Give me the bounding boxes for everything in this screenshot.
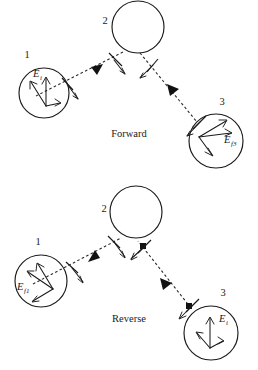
scattering-diagram-figure: 1 E i 2 3: [0, 0, 258, 370]
panel-reverse: 1 E f1 2 3: [15, 186, 238, 360]
polarization-marker-a: [109, 53, 125, 74]
node-label-reverse-3: 3: [220, 287, 225, 298]
field-label-reverse-3-subscript: i: [226, 319, 228, 327]
field-label-reverse-3: E: [218, 313, 226, 324]
field-label-reverse-1: E: [16, 281, 24, 292]
node-label-forward-1: 1: [24, 49, 29, 60]
node-label-reverse-2: 2: [101, 203, 106, 214]
field-vectors-forward-1: [30, 77, 61, 106]
ray-path: [36, 52, 123, 96]
ray-arrowhead-solid: [91, 64, 103, 75]
ray-node2-to-node1: [36, 52, 125, 99]
field-vectors-reverse-1: [27, 263, 53, 302]
ray-arrowhead-solid: [160, 278, 172, 290]
field-label-reverse-1-subscript: f1: [24, 287, 29, 295]
polarization-marker-g: [131, 240, 151, 260]
ray-node1-to-node2: [33, 236, 125, 284]
caption-reverse: Reverse: [112, 313, 146, 324]
ray-node3-to-node2: [131, 240, 199, 319]
field-label-forward-1-subscript: i: [40, 74, 42, 82]
node-circle-forward-1: [19, 68, 69, 118]
node-label-forward-3: 3: [219, 96, 224, 107]
ray-arrowhead-solid: [167, 84, 179, 96]
polarization-marker-b: [62, 78, 78, 99]
diagram-canvas: 1 E i 2 3: [0, 0, 258, 370]
polarization-marker-f: [108, 236, 125, 258]
field-label-forward-1: E: [32, 68, 40, 79]
node-label-reverse-1: 1: [35, 236, 40, 247]
field-label-forward-3: E: [223, 134, 231, 145]
node-circle-reverse-3: [184, 306, 238, 360]
ray-arrowhead-solid: [88, 250, 100, 262]
node-circle-reverse-2: [110, 186, 162, 238]
node-label-forward-2: 2: [102, 15, 107, 26]
field-label-forward-3-subscript: f3: [231, 140, 237, 148]
polarization-marker-h: [179, 299, 199, 319]
ray-path: [138, 241, 191, 308]
caption-forward: Forward: [111, 128, 147, 139]
polarization-marker-c: [140, 59, 158, 78]
node-circle-forward-2: [112, 1, 164, 53]
panel-forward: 1 E i 2 3: [19, 1, 243, 168]
